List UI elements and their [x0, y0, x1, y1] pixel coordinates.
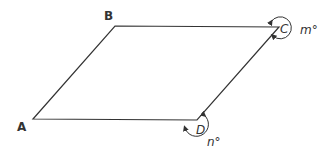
parallelogram-diagram: A B C D m° n° — [0, 0, 331, 154]
vertex-label-a: A — [17, 120, 27, 134]
angle-label-n: n° — [207, 135, 221, 149]
vertex-label-c: C — [280, 22, 289, 36]
parallelogram-shape — [33, 26, 279, 120]
vertex-label-d: D — [196, 123, 205, 137]
angle-label-m: m° — [300, 23, 318, 37]
vertex-label-b: B — [104, 9, 113, 23]
